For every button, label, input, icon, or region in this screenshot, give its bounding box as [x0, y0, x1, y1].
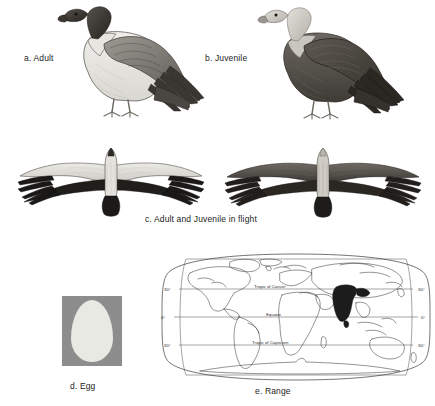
footer-cut-text [170, 401, 350, 406]
map-label-equator: Equator [266, 312, 282, 317]
figure-adult-vulture [52, 4, 212, 122]
figure-juvenile-in-flight [225, 146, 421, 218]
figure-juvenile-vulture [252, 4, 412, 122]
map-lat-left-0: 0° [161, 315, 165, 320]
illustration-plate: a. Adult [0, 0, 435, 406]
caption-juvenile: b. Juvenile [205, 53, 247, 63]
figure-range-map: Tropic of Cancer Equator Tropic of Capri… [160, 253, 432, 381]
figure-adult-in-flight [18, 146, 204, 218]
egg-shape [71, 300, 113, 362]
map-lat-left-30s: 30° [164, 343, 171, 348]
caption-egg: d. Egg [70, 381, 95, 391]
egg-swatch-background [62, 296, 122, 366]
map-lat-right-30s: 30° [418, 343, 425, 348]
caption-adult: a. Adult [24, 53, 54, 63]
caption-range: e. Range [255, 386, 291, 396]
map-lat-right-30n: 30° [418, 287, 425, 292]
map-lat-left-30n: 30° [164, 287, 171, 292]
map-label-tropic-of-capricorn: Tropic of Capricorn [252, 340, 289, 345]
map-label-tropic-of-cancer: Tropic of Cancer [254, 284, 286, 289]
caption-in-flight: c. Adult and Juvenile in flight [145, 214, 257, 224]
map-lat-right-0: 0° [421, 315, 425, 320]
